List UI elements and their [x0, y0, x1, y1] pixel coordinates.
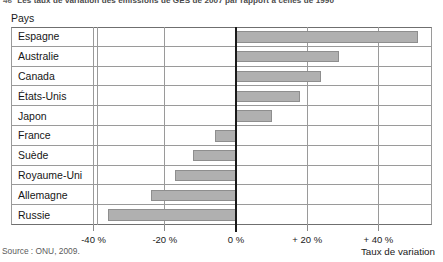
x-tick-label-40: + 40 %: [363, 234, 393, 245]
column-header-pays: Pays: [11, 12, 34, 24]
x-tick-label--40: -40 %: [81, 234, 106, 245]
row-label-su-de: Suède: [18, 149, 48, 161]
bar-su-de: [193, 150, 236, 162]
figure-gas-emissions-variation-chart: 46Les taux de variation des émissions de…: [0, 0, 443, 262]
figure-title-text: Les taux de variation des émissions de G…: [17, 0, 334, 5]
x-tick-40: [378, 225, 379, 231]
source-note: Source : ONU, 2009.: [2, 246, 80, 256]
table-row: Japon: [11, 106, 432, 126]
table-row: Canada: [11, 67, 432, 87]
row-label-canada: Canada: [18, 70, 55, 82]
bar-royaume-uni: [175, 170, 236, 182]
grid-line--40: [93, 27, 94, 225]
x-tick-label-20: + 20 %: [292, 234, 322, 245]
grid-line-40: [378, 27, 379, 225]
bar-france: [215, 130, 236, 142]
x-tick-0: [235, 225, 237, 232]
x-tick--20: [164, 225, 165, 231]
bar-russie: [108, 209, 236, 221]
bar-allemagne: [151, 190, 236, 202]
bar-espagne: [236, 31, 418, 43]
x-axis-title: Taux de variation: [361, 246, 435, 257]
label-column-separator: [97, 27, 98, 225]
row-label-france: France: [18, 129, 51, 141]
bar-australie: [236, 51, 339, 63]
row-label-japon: Japon: [18, 110, 47, 122]
x-tick-label-0: 0 %: [228, 234, 244, 245]
row-label--tats-unis: États-Unis: [18, 90, 66, 102]
bar--tats-unis: [236, 91, 300, 103]
x-tick-label--20: -20 %: [152, 234, 177, 245]
figure-title: 46Les taux de variation des émissions de…: [3, 0, 334, 5]
row-label-allemagne: Allemagne: [18, 189, 68, 201]
figure-title-strip: 46Les taux de variation des émissions de…: [0, 0, 443, 11]
x-tick--40: [93, 225, 94, 231]
x-tick-20: [307, 225, 308, 231]
table-row: États-Unis: [11, 86, 432, 106]
table-row: Australie: [11, 47, 432, 67]
row-label-russie: Russie: [18, 209, 50, 221]
row-label-espagne: Espagne: [18, 30, 59, 42]
bar-japon: [236, 110, 272, 122]
row-label-royaume-uni: Royaume-Uni: [18, 169, 82, 181]
row-label-australie: Australie: [18, 50, 59, 62]
bar-canada: [236, 71, 321, 83]
zero-axis-line: [235, 27, 237, 225]
figure-number: 46: [3, 0, 12, 5]
plot-area: EspagneAustralieCanadaÉtats-UnisJaponFra…: [11, 27, 432, 225]
